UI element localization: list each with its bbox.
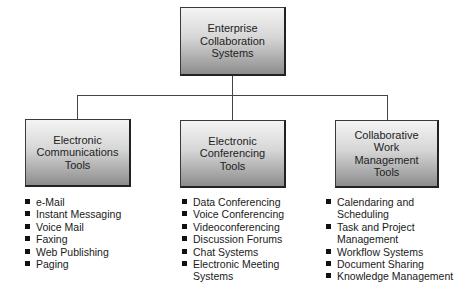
node-label: Collaborative Work Management Tools	[354, 129, 418, 179]
list-conferencing-tools: Data Conferencing Voice Conferencing Vid…	[182, 196, 300, 283]
list-communications-tools: e-Mail Instant Messaging Voice Mail Faxi…	[25, 196, 165, 270]
list-item: Calendaring and Scheduling	[326, 196, 416, 221]
list-item: Voice Mail	[25, 221, 165, 233]
list-item: Paging	[25, 258, 165, 270]
list-item: Document Sharing	[326, 258, 416, 270]
list-item: Videoconferencing	[182, 221, 300, 233]
node-label: Electronic Communications Tools	[37, 134, 119, 172]
list-work-management-tools: Calendaring and Scheduling Task and Proj…	[326, 196, 416, 283]
root-node-label: Enterprise Collaboration Systems	[200, 22, 265, 60]
node-collaborative-work-management-tools: Collaborative Work Management Tools	[335, 120, 439, 188]
list-item: Task and Project Management	[326, 221, 416, 246]
node-label: Electronic Conferencing Tools	[200, 135, 265, 173]
list-item: Chat Systems	[182, 246, 300, 258]
list-item: Electronic Meeting Systems	[182, 258, 300, 283]
connector-middle-down	[232, 95, 233, 120]
connector-root-down	[232, 75, 233, 96]
list-item: Data Conferencing	[182, 196, 300, 208]
list-item: Knowledge Management	[326, 270, 416, 282]
connector-left-down	[77, 95, 78, 120]
list-item: Workflow Systems	[326, 246, 416, 258]
list-item: e-Mail	[25, 196, 165, 208]
list-item: Instant Messaging	[25, 208, 165, 220]
list-item: Discussion Forums	[182, 233, 300, 245]
root-node-enterprise-collaboration-systems: Enterprise Collaboration Systems	[180, 7, 286, 76]
list-item: Voice Conferencing	[182, 208, 300, 220]
list-item: Web Publishing	[25, 246, 165, 258]
connector-right-down	[387, 95, 388, 120]
list-item: Faxing	[25, 233, 165, 245]
node-electronic-communications-tools: Electronic Communications Tools	[25, 119, 131, 187]
node-electronic-conferencing-tools: Electronic Conferencing Tools	[180, 120, 286, 188]
